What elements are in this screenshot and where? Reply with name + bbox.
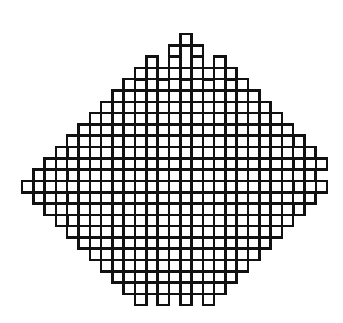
fractal-pattern-canvas bbox=[0, 0, 343, 323]
fractal-figure bbox=[0, 0, 343, 323]
canvas-background bbox=[0, 0, 343, 323]
